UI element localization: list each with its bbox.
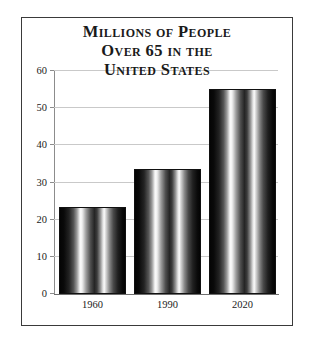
chart-title-line-1: Millions of People xyxy=(22,22,292,41)
tick-mark-10 xyxy=(50,256,54,257)
chart-title-line-3: United States xyxy=(22,60,292,79)
ytick-label-20: 20 xyxy=(37,213,48,224)
xtick-label-2020: 2020 xyxy=(232,299,253,310)
tick-mark-50 xyxy=(50,107,54,108)
bar-2020[interactable]: 2020 xyxy=(209,89,276,294)
ytick-label-0: 0 xyxy=(42,288,47,299)
chart-frame: Millions of People Over 65 in the United… xyxy=(21,17,293,326)
xtick-label-1960: 1960 xyxy=(82,299,103,310)
tick-mark-0 xyxy=(50,293,54,294)
xtick-label-1990: 1990 xyxy=(157,299,178,310)
tick-mark-40 xyxy=(50,144,54,145)
bar-1960[interactable]: 1960 xyxy=(59,207,126,294)
bar-1990[interactable]: 1990 xyxy=(134,169,201,294)
chart-title-line-2: Over 65 in the xyxy=(22,41,292,60)
ytick-label-50: 50 xyxy=(37,102,48,113)
tick-mark-30 xyxy=(50,182,54,183)
x-axis-line xyxy=(54,294,279,295)
plot-area: 60 50 40 30 20 10 0 1960 xyxy=(54,71,278,294)
tick-mark-20 xyxy=(50,219,54,220)
ytick-label-10: 10 xyxy=(37,250,48,261)
ytick-label-30: 30 xyxy=(37,176,48,187)
ytick-label-40: 40 xyxy=(37,139,48,150)
chart-title: Millions of People Over 65 in the United… xyxy=(22,22,292,79)
